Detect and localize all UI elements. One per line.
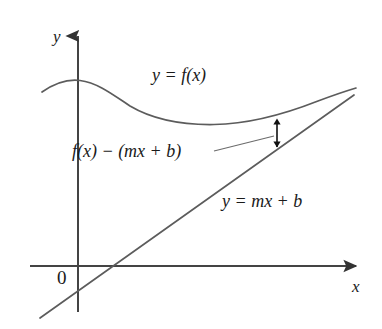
origin-label: 0: [57, 268, 67, 287]
y-axis-label: y: [53, 28, 61, 45]
linear-function-label: y = mx + b: [222, 192, 302, 210]
function-curve-label: y = f(x): [152, 66, 206, 84]
gap-expression-label: f(x) − (mx + b): [72, 142, 181, 160]
x-axis-label: x: [352, 278, 360, 295]
